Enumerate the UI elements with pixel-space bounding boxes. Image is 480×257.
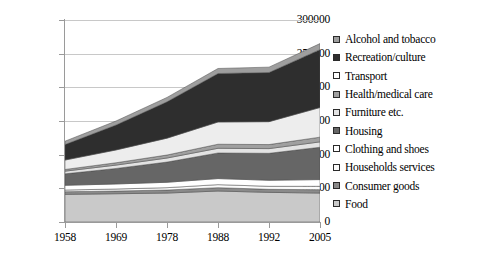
x-axis-tick — [218, 223, 219, 228]
legend-swatch-icon — [333, 72, 340, 79]
legend-item[interactable]: Food — [333, 195, 480, 213]
legend-item[interactable]: Transport — [333, 67, 480, 85]
stacked-area-chart: 050000100000150000200000250000300000 195… — [0, 0, 480, 257]
legend-item-label: Health/medical care — [345, 88, 433, 100]
x-axis-tick — [320, 223, 321, 228]
plot-wrapper: 050000100000150000200000250000300000 195… — [0, 0, 330, 257]
legend-item-label: Food — [345, 198, 368, 210]
area-series-food — [65, 191, 320, 222]
legend-swatch-icon — [333, 200, 340, 207]
x-axis-tick — [269, 223, 270, 228]
stacked-area-series — [65, 20, 320, 222]
legend-item[interactable]: Consumer goods — [333, 176, 480, 194]
legend-item[interactable]: Recreation/culture — [333, 48, 480, 66]
legend-swatch-icon — [333, 36, 340, 43]
x-axis-line — [64, 222, 321, 223]
legend-swatch-icon — [333, 127, 340, 134]
plot-area — [65, 20, 320, 222]
legend-item-label: Transport — [345, 70, 387, 82]
legend-item[interactable]: Health/medical care — [333, 85, 480, 103]
legend-item[interactable]: Clothing and shoes — [333, 140, 480, 158]
x-axis-tick — [65, 223, 66, 228]
legend-item-label: Furniture etc. — [345, 106, 403, 118]
legend-item-label: Alcohol and tobacco — [345, 33, 435, 45]
legend-swatch-icon — [333, 91, 340, 98]
legend-item-label: Housing — [345, 125, 382, 137]
chart-legend: Alcohol and tobaccoRecreation/cultureTra… — [333, 30, 480, 213]
legend-item-label: Households services — [345, 161, 434, 173]
legend-item[interactable]: Households services — [333, 158, 480, 176]
x-axis-tick-label: 2005 — [290, 231, 350, 243]
legend-swatch-icon — [333, 145, 340, 152]
legend-swatch-icon — [333, 164, 340, 171]
x-axis-tick — [116, 223, 117, 228]
legend-item[interactable]: Furniture etc. — [333, 103, 480, 121]
x-axis-tick — [167, 223, 168, 228]
legend-item-label: Clothing and shoes — [345, 143, 429, 155]
legend-swatch-icon — [333, 182, 340, 189]
legend-swatch-icon — [333, 54, 340, 61]
legend-swatch-icon — [333, 109, 340, 116]
legend-item[interactable]: Alcohol and tobacco — [333, 30, 480, 48]
legend-item-label: Recreation/culture — [345, 51, 425, 63]
legend-item[interactable]: Housing — [333, 121, 480, 139]
legend-item-label: Consumer goods — [345, 180, 419, 192]
